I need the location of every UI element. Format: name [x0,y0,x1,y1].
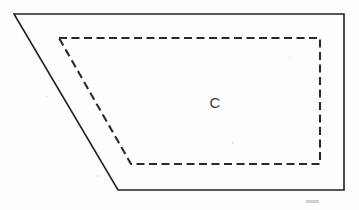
paper-speck [289,57,291,59]
figure-container: C [0,0,359,210]
region-label-c: C [209,94,220,111]
paper-speck [97,175,99,177]
paper-speck [46,96,48,98]
diagram-canvas: C [0,0,359,210]
paper-speck [232,141,234,144]
scan-smudge-artifact [306,200,319,203]
dashed-quadrilateral-inset [59,38,320,164]
